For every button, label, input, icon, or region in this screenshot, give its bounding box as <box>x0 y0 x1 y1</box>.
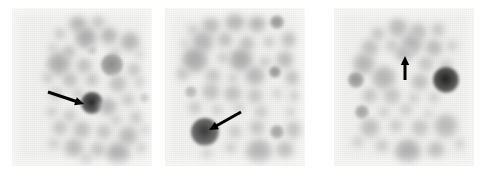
blot-spot <box>217 32 233 48</box>
blot-spot <box>202 83 220 101</box>
blot-spot <box>286 121 304 139</box>
blot-spot <box>427 141 445 159</box>
blot-spot <box>249 120 265 136</box>
blot-spot <box>272 89 282 99</box>
blot-spot <box>286 107 296 117</box>
blot-spot <box>395 139 421 165</box>
blot-spot <box>418 56 434 72</box>
blot-spot <box>408 92 420 104</box>
blot-spot <box>434 114 458 138</box>
blot-spot <box>270 125 284 139</box>
blot-spot <box>140 93 150 103</box>
panel-surface <box>165 8 305 166</box>
blot-spot <box>263 36 275 48</box>
blot-spot <box>42 72 54 84</box>
blot-spot <box>91 15 105 29</box>
blot-spot <box>247 88 263 104</box>
blot-spot <box>399 103 413 117</box>
figure-container <box>0 0 486 175</box>
blot-spot <box>233 102 245 114</box>
blot-spot <box>79 153 93 166</box>
blot-spot <box>52 120 68 136</box>
blot-spot <box>90 142 106 158</box>
blot-spot <box>254 105 268 119</box>
blot-spot <box>228 125 242 139</box>
blot-spot <box>185 86 197 98</box>
blot-spot <box>378 106 390 118</box>
blot-spot <box>135 49 145 59</box>
blot-spot <box>395 45 413 63</box>
blot-spot <box>129 111 143 125</box>
blot-spot <box>423 109 433 119</box>
blot-spot <box>48 138 60 150</box>
blot-spot <box>446 40 458 52</box>
blot-spot <box>87 45 97 55</box>
blot-spot <box>270 15 284 29</box>
blot-spot <box>289 90 301 102</box>
blot-spot <box>276 141 294 159</box>
blot-spot <box>46 106 58 118</box>
blot-spot <box>389 119 403 133</box>
blot-spot <box>352 136 364 148</box>
blot-spot <box>348 72 364 88</box>
blot-spot <box>96 124 112 140</box>
blot-spot <box>454 138 466 150</box>
blot-spot <box>375 139 389 153</box>
blot-spot <box>140 124 152 136</box>
blot-spot <box>227 72 239 84</box>
blot-spot <box>176 67 190 81</box>
blot-spot <box>49 87 63 101</box>
blot-spot <box>224 85 242 103</box>
blot-spot <box>269 66 281 78</box>
blot-spot <box>134 76 146 88</box>
blot-spot <box>285 70 301 86</box>
blot-spot <box>109 75 127 93</box>
blot-spot <box>101 54 123 76</box>
panel-surface <box>334 8 474 166</box>
blot-spot <box>411 119 429 137</box>
blot-spot <box>205 68 221 84</box>
blot-spot <box>362 88 378 104</box>
blot-spot <box>121 93 135 107</box>
blot-spot <box>411 73 429 91</box>
blot-spot <box>73 121 91 139</box>
blot-spot <box>383 87 401 105</box>
blot-spot <box>85 73 99 87</box>
blot-spot <box>188 101 202 115</box>
blot-spot <box>360 118 380 138</box>
blot-spot <box>62 72 78 88</box>
panel-surface <box>12 8 152 166</box>
blot-spot <box>201 148 213 160</box>
blot-spot <box>259 56 271 68</box>
blot-spot <box>100 27 118 45</box>
blot-spot <box>245 66 265 86</box>
blot-spot <box>54 28 66 40</box>
blot-spot <box>191 118 219 146</box>
blot-spot <box>211 104 223 116</box>
blot-spot <box>217 52 229 64</box>
blot-spot <box>76 58 92 74</box>
blot-spot <box>106 142 130 166</box>
blot-spot <box>225 12 245 32</box>
blot-panel-1 <box>12 8 152 166</box>
blot-spot <box>246 139 272 165</box>
blot-spot <box>281 32 297 48</box>
blot-panel-2 <box>165 8 305 166</box>
blot-spot <box>425 39 443 57</box>
blot-spot <box>433 67 459 93</box>
blot-spot <box>110 114 122 126</box>
blot-spot <box>127 63 141 77</box>
blot-panel-3 <box>334 8 474 166</box>
blot-spot <box>225 142 237 154</box>
blot-spot <box>136 142 148 154</box>
blot-spot <box>248 15 266 33</box>
blot-spot <box>355 105 369 119</box>
blot-spot <box>428 92 440 104</box>
blot-spot <box>431 23 445 37</box>
